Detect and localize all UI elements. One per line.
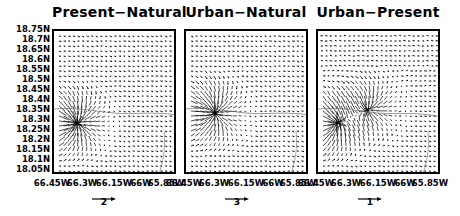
reference-vector-label: 1 — [355, 197, 385, 207]
reference-vector: 3 — [222, 189, 252, 211]
x-tick-label: 66.3W — [199, 178, 229, 188]
reference-vector-label: 2 — [89, 197, 119, 207]
y-tick-label: 18.55N — [16, 65, 50, 74]
reference-vector: 2 — [89, 189, 119, 211]
x-tick-label: 66.15W — [228, 178, 264, 188]
vector-plot-urban-present — [316, 29, 440, 174]
y-tick-label: 18.7N — [22, 35, 50, 44]
vector-plot-urban-natural — [184, 29, 308, 174]
y-tick-label: 18.5N — [22, 75, 50, 84]
x-tick-label: 66.45W — [298, 178, 334, 188]
x-tick-label: 66.45W — [34, 178, 70, 188]
x-tick-label: 66.3W — [67, 178, 97, 188]
reference-vector-label: 3 — [222, 197, 252, 207]
y-tick-label: 18.65N — [16, 45, 50, 54]
y-tick-label: 18.1N — [22, 155, 50, 164]
x-tick-label: 65.85W — [412, 178, 448, 188]
y-tick-label: 18.25N — [16, 125, 50, 134]
panel-title-present-natural: Present−Natural — [52, 4, 176, 20]
vector-plot-present-natural — [52, 29, 176, 174]
panel-title-urban-present: Urban−Present — [316, 4, 440, 20]
y-tick-label: 18.2N — [22, 135, 50, 144]
y-tick-label: 18.4N — [22, 95, 50, 104]
reference-vector: 1 — [355, 189, 385, 211]
x-tick-label: 66.3W — [331, 178, 361, 188]
y-tick-label: 18.35N — [16, 105, 50, 114]
y-tick-label: 18.3N — [22, 115, 50, 124]
y-tick-label: 18.15N — [16, 145, 50, 154]
panel-title-urban-natural: Urban−Natural — [184, 4, 308, 20]
x-tick-label: 66.15W — [360, 178, 396, 188]
y-tick-label: 18.6N — [22, 55, 50, 64]
x-tick-label: 66.45W — [166, 178, 202, 188]
y-tick-label: 18.05N — [16, 165, 50, 174]
y-tick-label: 18.75N — [16, 25, 50, 34]
y-tick-label: 18.45N — [16, 85, 50, 94]
x-tick-label: 66.15W — [96, 178, 132, 188]
